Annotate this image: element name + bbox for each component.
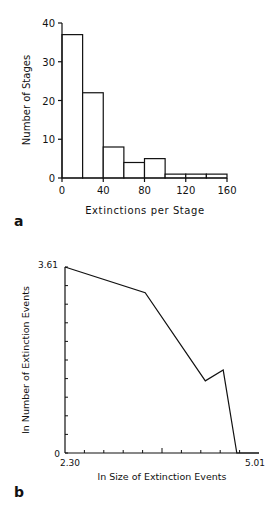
x-tick-label-max: 5.01 [245, 458, 265, 468]
histogram-bar [103, 147, 124, 178]
figure: 010203040 04080120160 Number of Stages E… [0, 0, 274, 517]
x-tick-label: 40 [97, 185, 110, 196]
line-panel-b: 3.61 0 2.30 5.01 ln Number of Extinction… [14, 260, 265, 500]
histogram-bar [145, 159, 166, 178]
x-ticks [84, 448, 239, 453]
panel-label-b: b [14, 484, 24, 500]
x-axis-label: ln Size of Extinction Events [98, 471, 227, 482]
histogram-bar [62, 35, 83, 178]
y-axis-label: ln Number of Extinction Events [20, 286, 31, 434]
panel-label-a: a [14, 213, 23, 229]
x-ticks: 04080120160 [59, 178, 237, 196]
x-tick-label: 120 [176, 185, 195, 196]
y-tick-label: 30 [42, 57, 55, 68]
x-tick-label: 0 [59, 185, 65, 196]
histogram-bar [83, 93, 104, 178]
data-line [65, 267, 259, 453]
y-tick-label-max: 3.61 [38, 260, 58, 270]
y-tick-label: 40 [42, 18, 55, 29]
y-tick-label: 20 [42, 96, 55, 107]
histogram-panel-a: 010203040 04080120160 Number of Stages E… [14, 18, 237, 229]
x-tick-label-min: 2.30 [60, 458, 80, 468]
y-axis-label: Number of Stages [21, 55, 32, 145]
histogram-bar [124, 163, 145, 179]
x-tick-label: 160 [217, 185, 236, 196]
y-tick-label: 0 [49, 173, 55, 184]
histogram-bars [62, 35, 227, 178]
x-tick-label: 80 [138, 185, 151, 196]
x-axis-label: Extinctions per Stage [85, 205, 205, 216]
y-ticks: 010203040 [42, 18, 62, 184]
y-tick-label: 10 [42, 134, 55, 145]
